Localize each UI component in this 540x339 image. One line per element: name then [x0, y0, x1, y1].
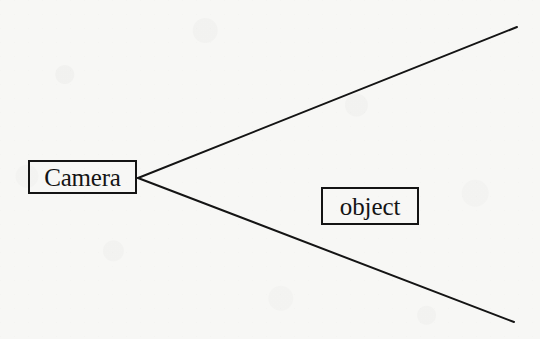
camera-node-label: Camera [44, 164, 121, 189]
camera-node: Camera [28, 160, 137, 194]
object-node: object [321, 187, 419, 225]
camera-fov-diagram: Camera object [0, 0, 540, 339]
upper-ray-line [138, 27, 517, 178]
object-node-label: object [340, 193, 400, 218]
